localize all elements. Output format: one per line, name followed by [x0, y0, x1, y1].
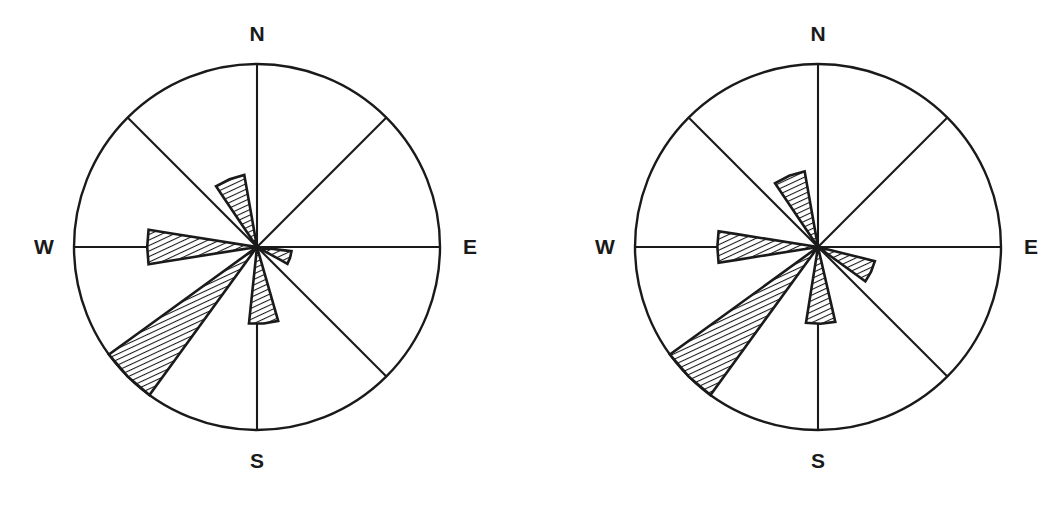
compass-label-w-right: W: [595, 235, 615, 258]
rose-spoke-45: [257, 118, 386, 247]
rose-spoke-45: [818, 118, 947, 247]
petal-sse: [249, 247, 278, 324]
rose-diagram-figure: NESWNESW: [0, 0, 1055, 505]
rose-right: [635, 64, 1001, 430]
rose-layer: [74, 64, 1001, 430]
compass-label-n-right: N: [810, 22, 825, 45]
compass-label-e-right: E: [1024, 235, 1038, 258]
rose-spoke-135: [818, 247, 947, 376]
compass-label-s-left: S: [250, 449, 264, 472]
rose-diagram-canvas: NESWNESW: [0, 0, 1055, 505]
rose-left: [74, 64, 440, 430]
compass-label-n-left: N: [249, 22, 264, 45]
compass-label-s-right: S: [811, 449, 825, 472]
petal-sw: [109, 247, 257, 395]
compass-label-w-left: W: [34, 235, 54, 258]
compass-label-e-left: E: [463, 235, 477, 258]
petal-sw: [670, 247, 818, 395]
